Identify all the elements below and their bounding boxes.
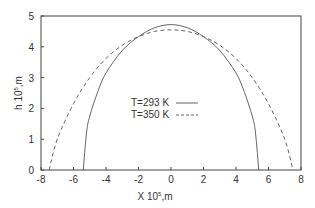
y-tick-label: 3 (28, 73, 34, 84)
x-tick-label: -4 (102, 174, 111, 185)
chart: -8-6-4-202468012345 T=293 K T=350 K X 10… (0, 0, 315, 208)
series-line-dashed (49, 30, 293, 170)
x-tick-label: 0 (168, 174, 174, 185)
x-tick-label: -6 (69, 174, 78, 185)
x-axis-label: X 105,m (137, 191, 172, 202)
x-tick-label: -8 (37, 174, 46, 185)
x-tick-label: 2 (201, 174, 207, 185)
y-tick-label: 1 (28, 134, 34, 145)
legend-label-293: T=293 K (131, 97, 169, 108)
legend: T=293 K T=350 K (131, 97, 198, 120)
y-axis-label: h 105,m (13, 76, 24, 110)
y-tick-label: 2 (28, 103, 34, 114)
x-tick-label: 8 (298, 174, 304, 185)
legend-label-350: T=350 K (131, 109, 169, 120)
series-lines (49, 25, 293, 170)
x-tick-label: -2 (134, 174, 143, 185)
x-tick-label: 6 (266, 174, 272, 185)
series-line-solid (83, 25, 259, 170)
y-tick-label: 5 (28, 11, 34, 22)
y-tick-label: 0 (28, 165, 34, 176)
y-tick-label: 4 (28, 42, 34, 53)
x-tick-label: 4 (233, 174, 239, 185)
